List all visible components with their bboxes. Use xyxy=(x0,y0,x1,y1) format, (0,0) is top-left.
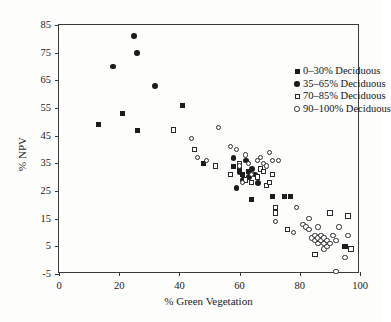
data-point xyxy=(237,163,242,168)
y-tick-label: 25 xyxy=(21,186,51,197)
plot-area: -551525354555657585 020406080100 0–30% D… xyxy=(58,24,359,273)
y-tick-label: 55 xyxy=(21,103,51,114)
data-point xyxy=(294,205,299,210)
data-point xyxy=(327,210,332,215)
data-point xyxy=(171,127,176,132)
x-tick-label: 20 xyxy=(114,281,125,292)
data-point xyxy=(249,166,255,172)
legend-item: 70–85% Deciduous xyxy=(291,90,391,103)
data-point xyxy=(348,246,353,251)
data-point xyxy=(195,155,200,160)
data-point xyxy=(333,269,338,274)
data-point xyxy=(228,172,233,177)
x-tick-mark xyxy=(179,272,180,276)
x-tick-mark xyxy=(360,272,361,276)
legend-item: 0–30% Deciduous xyxy=(291,65,391,78)
x-tick-mark xyxy=(300,272,301,276)
data-point xyxy=(345,213,350,218)
data-point xyxy=(342,244,347,249)
open-circle-icon xyxy=(291,106,303,112)
data-point xyxy=(228,144,233,149)
x-axis-title: % Green Vegetation xyxy=(58,295,359,307)
y-tick-mark xyxy=(55,80,59,81)
data-point xyxy=(237,169,243,175)
y-tick-label: 45 xyxy=(21,130,51,141)
legend-item: 35–65% Deciduous xyxy=(291,78,391,91)
data-point xyxy=(336,224,341,229)
data-point xyxy=(276,158,281,163)
x-tick-label: 40 xyxy=(174,281,185,292)
legend-item-label: 0–30% Deciduous xyxy=(303,66,380,77)
data-point xyxy=(249,180,254,185)
data-point xyxy=(243,152,248,157)
data-point xyxy=(231,155,237,161)
data-point xyxy=(312,252,317,257)
data-point xyxy=(273,210,278,215)
data-point xyxy=(342,255,347,260)
legend: 0–30% Deciduous35–65% Deciduous70–85% De… xyxy=(291,65,391,115)
data-point xyxy=(267,180,272,185)
y-tick-mark xyxy=(55,25,59,26)
data-point xyxy=(134,50,140,56)
y-tick-mark xyxy=(55,163,59,164)
y-tick-label: 5 xyxy=(21,241,51,252)
data-point xyxy=(345,233,350,238)
data-point xyxy=(270,194,275,199)
data-point xyxy=(267,150,272,155)
data-point xyxy=(258,155,263,160)
filled-circle-icon xyxy=(291,81,303,87)
data-point xyxy=(249,197,254,202)
data-point xyxy=(216,125,221,130)
data-point xyxy=(120,111,125,116)
y-tick-label: 85 xyxy=(21,20,51,31)
data-point xyxy=(131,33,137,39)
data-point xyxy=(204,158,209,163)
legend-item: 90–100% Deciduous xyxy=(291,103,391,116)
data-point xyxy=(333,238,338,243)
data-point xyxy=(285,227,290,232)
y-tick-mark xyxy=(55,219,59,220)
legend-item-label: 70–85% Deciduous xyxy=(303,91,386,102)
y-tick-mark xyxy=(55,136,59,137)
legend-item-label: 35–65% Deciduous xyxy=(303,79,386,90)
data-point xyxy=(234,147,239,152)
data-point xyxy=(213,163,218,168)
data-point xyxy=(255,180,261,186)
y-tick-mark xyxy=(55,191,59,192)
data-point xyxy=(261,169,266,174)
data-point xyxy=(270,158,275,163)
data-point xyxy=(135,128,140,133)
data-point xyxy=(327,241,332,246)
data-point xyxy=(234,185,240,191)
x-tick-label: 80 xyxy=(295,281,306,292)
x-tick-mark xyxy=(119,272,120,276)
x-tick-label: 100 xyxy=(352,281,368,292)
filled-square-icon xyxy=(291,69,303,74)
data-point xyxy=(152,83,158,89)
data-point xyxy=(264,163,269,168)
y-tick-mark xyxy=(55,246,59,247)
x-tick-mark xyxy=(59,272,60,276)
y-tick-mark xyxy=(55,53,59,54)
data-point xyxy=(273,219,278,224)
data-point xyxy=(270,172,275,177)
x-tick-label: 60 xyxy=(234,281,245,292)
data-point xyxy=(180,103,185,108)
data-point xyxy=(306,216,311,221)
data-point xyxy=(288,194,293,199)
y-tick-label: 75 xyxy=(21,47,51,58)
data-point xyxy=(192,147,197,152)
data-point xyxy=(282,194,287,199)
open-square-icon xyxy=(291,94,303,99)
data-point xyxy=(231,164,236,169)
data-point xyxy=(255,174,260,179)
data-point xyxy=(240,180,245,185)
legend-item-label: 90–100% Deciduous xyxy=(303,104,391,115)
y-tick-mark xyxy=(55,108,59,109)
y-tick-label: 35 xyxy=(21,158,51,169)
x-tick-mark xyxy=(240,272,241,276)
data-point xyxy=(96,122,101,127)
y-tick-label: -5 xyxy=(21,269,51,280)
data-point xyxy=(291,230,296,235)
